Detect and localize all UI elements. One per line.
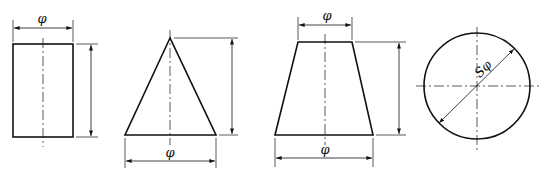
solids-dimension-diagram: φ φ φ φ Sφ: [0, 0, 543, 184]
cone-view: [125, 30, 238, 168]
frustum-outline: [275, 42, 373, 135]
cylinder-diameter-label: φ: [37, 11, 47, 26]
frustum-bottom-diameter-label: φ: [320, 142, 330, 157]
sphere-view: [416, 27, 540, 150]
cylinder-view: [13, 20, 98, 147]
cone-outline: [125, 38, 216, 135]
cone-diameter-label: φ: [165, 145, 175, 160]
sphere-diameter-label: Sφ: [471, 57, 495, 81]
frustum-view: [275, 17, 406, 167]
frustum-top-diameter-label: φ: [322, 8, 332, 23]
